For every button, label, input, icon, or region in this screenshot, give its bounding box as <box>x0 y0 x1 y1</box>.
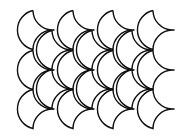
scale-shape <box>57 51 92 90</box>
scale-shape <box>17 51 52 90</box>
scale-shape <box>76 31 111 70</box>
scale-shape <box>17 90 52 129</box>
scale-shape <box>97 90 132 129</box>
scale-shape <box>137 51 172 90</box>
scale-shape <box>116 70 151 109</box>
scale-shape <box>57 11 92 50</box>
scale-shape <box>137 90 172 129</box>
scale-shape <box>137 11 172 50</box>
scale-shape <box>57 90 92 129</box>
scale-shape <box>36 70 71 109</box>
fish-scale-pattern <box>0 0 179 140</box>
scale-shape <box>116 31 151 70</box>
scale-shape <box>76 70 111 109</box>
scale-shape <box>97 11 132 50</box>
scale-shape <box>36 31 71 70</box>
scale-shape <box>97 51 132 90</box>
scale-shape <box>17 11 52 50</box>
